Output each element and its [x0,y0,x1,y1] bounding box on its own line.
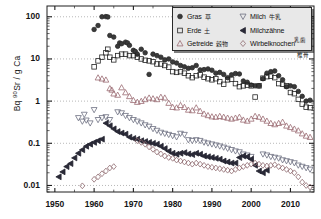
legend-label-cjk: 草 [205,12,211,21]
x-tick-label: 2000 [242,199,261,209]
x-tick-label: 2010 [281,199,300,209]
y-tick-label: 0.01 [23,180,40,190]
legend-item-wirbelknochen[interactable]: Wirbelknochen [239,37,295,51]
data-point [257,84,262,89]
data-point [210,68,215,73]
legend-label: Getreide [187,40,213,47]
legend-marker-filled-circle [176,12,184,21]
data-point [111,35,116,40]
y-tick-label: 100 [26,11,40,21]
data-point [139,47,144,52]
data-point [308,98,313,103]
data-point [127,43,132,48]
y-axis-ticks: 1001010.10.01 [0,0,45,219]
legend-marker-open-triangle-down [239,12,247,21]
data-point [147,72,152,77]
legend-label-cjk: 牛乳 [269,12,281,21]
legend-item-milch[interactable]: Milch牛乳 [239,10,295,24]
legend-marker-open-square [176,26,184,35]
y-tick-label: 1 [35,96,40,106]
data-point [272,69,277,74]
legend-label: Wirbelknochen [250,40,295,47]
data-point [221,72,226,77]
legend-label: Milchzähne [250,27,284,34]
x-tick-label: 1990 [202,199,221,209]
legend-column-right: Milch牛乳MilchzähneWirbelknochen [239,10,295,51]
legend-column-left: Gras草Erde土Getreide穀物 [176,10,228,51]
x-tick-label: 1980 [163,199,182,209]
data-point [292,84,297,89]
data-point [166,57,171,62]
chart-legend: Gras草Erde土Getreide穀物 Milch牛乳MilchzähneWi… [172,7,312,51]
legend-item-erde[interactable]: Erde土 [176,24,228,38]
x-tick-label: 1950 [45,199,64,209]
legend-item-milchzhne[interactable]: Milchzähne [239,24,295,38]
x-tick-label: 1970 [124,199,143,209]
legend-label: Milch [250,13,266,20]
legend-label: Gras [187,13,202,20]
legend-cjk-wirbelknochen-overflow: 椎骨 [297,51,309,59]
data-point [96,23,101,28]
y-tick-label: 10 [31,53,40,63]
legend-label: Erde [187,27,201,34]
data-point [143,51,148,56]
data-point [237,72,242,77]
y-tick-label: 0.1 [28,138,40,148]
data-point [106,15,111,20]
data-point [194,63,199,68]
x-tick-label: 1960 [85,199,104,209]
legend-marker-open-triangle-up [176,39,184,48]
data-point [92,27,97,32]
legend-marker-open-diamond [239,39,247,48]
legend-cjk-milchzaehne-overflow: 乳歯 [294,36,306,44]
legend-label-cjk: 土 [204,26,210,35]
legend-label-cjk: 穀物 [216,39,228,48]
x-axis-ticks: 1950196019701980199020002010 [0,196,321,212]
chart-figure: Bq 90Sr / g Ca 1001010.10.01 19501960197… [0,0,321,219]
legend-item-gras[interactable]: Gras草 [176,10,228,24]
legend-marker-filled-triangle-left [239,26,247,35]
legend-item-getreide[interactable]: Getreide穀物 [176,37,228,51]
